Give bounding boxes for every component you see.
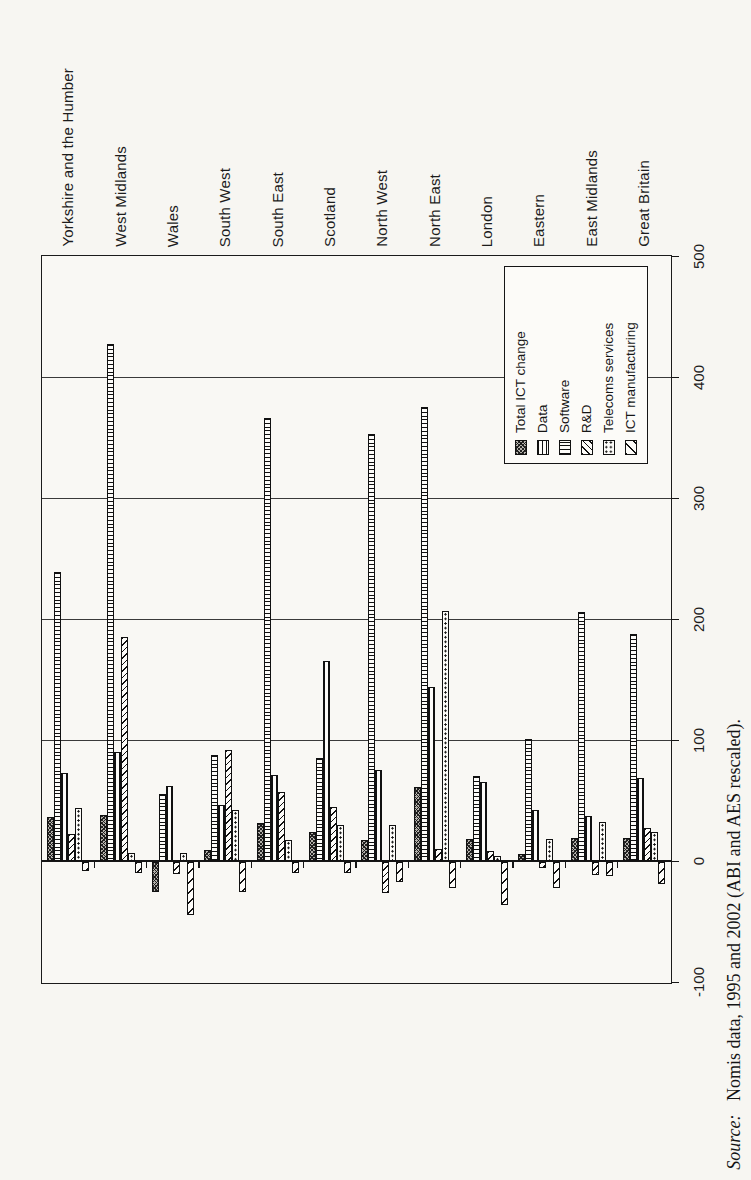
bar-south-west-ict-manufacturing [239, 862, 246, 892]
bar-yorkshire-and-the-humber-ict-manufacturing [82, 862, 89, 872]
bar-great-britain-total-ict-change [623, 838, 630, 861]
category-label-wales: Wales [163, 0, 183, 247]
legend-row-ict-manufacturing: ICT manufacturing [620, 267, 642, 455]
legend-swatch-total-icon [515, 440, 527, 455]
category-label-scotland: Scotland [320, 0, 340, 247]
category-label-text: West Midlands [113, 146, 130, 247]
source-prefix: Source: [724, 1115, 744, 1170]
value-axis-label-300: 300 [688, 439, 710, 559]
bar-yorkshire-and-the-humber-software [61, 773, 68, 861]
bar-north-west-telecoms-services [389, 825, 396, 861]
bar-eastern-software [532, 810, 539, 861]
category-label-great-britain: Great Britain [634, 0, 654, 247]
category-label-south-east: South East [268, 0, 288, 247]
bar-north-east-telecoms-services [442, 611, 449, 861]
category-label-text: North West [374, 170, 391, 247]
category-label-text: Wales [165, 205, 182, 247]
legend-swatch-rd-icon [581, 440, 593, 455]
legend-label: Software [557, 380, 572, 433]
bar-east-midlands-telecoms-services [599, 822, 606, 861]
category-label-eastern: Eastern [530, 0, 550, 247]
value-axis-label-0: 0 [688, 802, 710, 922]
value-axis-label-200: 200 [688, 560, 710, 680]
bar-east-midlands-ict-manufacturing [606, 862, 613, 877]
value-axis-tick-500 [671, 256, 679, 258]
bar-south-west-data [211, 755, 218, 861]
category-label-text: Eastern [531, 194, 548, 247]
bar-eastern-total-ict-change [518, 854, 525, 861]
bar-london-randd [487, 851, 494, 861]
bar-great-britain-ict-manufacturing [658, 862, 665, 884]
value-axis-tick-200 [671, 619, 679, 621]
bar-east-midlands-data [578, 612, 585, 861]
bar-south-east-randd [278, 792, 285, 861]
bar-north-west-data [368, 434, 375, 861]
bar-scotland-telecoms-services [337, 825, 344, 861]
bar-great-britain-data [630, 634, 637, 861]
bar-london-telecoms-services [494, 856, 501, 861]
legend-label: Telecoms services [601, 323, 616, 433]
bar-wales-software [166, 786, 173, 861]
value-axis-label-text: 300 [691, 486, 708, 511]
bar-west-midlands-software [114, 752, 121, 861]
bar-west-midlands-total-ict-change [100, 815, 107, 861]
legend-label: R&D [579, 404, 594, 433]
value-axis-label-text: 0 [691, 857, 708, 865]
bar-south-west-total-ict-change [204, 850, 211, 861]
bar-eastern-ict-manufacturing [553, 862, 560, 889]
value-axis-tick-0 [671, 861, 679, 863]
bar-london-total-ict-change [466, 839, 473, 861]
source-note-text: Source: Nomis data, 1995 and 2002 (ABI a… [725, 719, 745, 1170]
category-label-east-midlands: East Midlands [582, 0, 602, 247]
bar-wales-randd [173, 862, 180, 874]
bar-south-east-telecoms-services [285, 840, 292, 861]
legend-row-telecoms-services: Telecoms services [598, 267, 620, 455]
category-label-north-west: North West [373, 0, 393, 247]
gridline-300 [42, 498, 671, 499]
category-label-text: Yorkshire and the Humber [60, 68, 77, 247]
bar-london-software [480, 782, 487, 861]
value-axis-tick-400 [671, 377, 679, 379]
bar-south-east-total-ict-change [257, 823, 264, 861]
value-axis-label-text: -100 [691, 967, 708, 997]
bar-east-midlands-total-ict-change [571, 838, 578, 861]
legend-row-data: Data [532, 267, 554, 455]
category-label-text: North East [427, 174, 444, 247]
category-tick [408, 861, 410, 868]
bar-south-west-software [218, 805, 225, 861]
bar-west-midlands-data [107, 344, 114, 861]
bar-scotland-ict-manufacturing [344, 862, 351, 873]
category-tick [303, 861, 305, 868]
bar-scotland-randd [330, 807, 337, 861]
legend-label: ICT manufacturing [623, 322, 638, 433]
category-label-text: London [479, 196, 496, 247]
bar-yorkshire-and-the-humber-total-ict-change [47, 817, 54, 861]
bar-wales-ict-manufacturing [187, 862, 194, 915]
bar-north-east-randd [435, 849, 442, 861]
bar-london-data [473, 776, 480, 861]
category-tick [617, 861, 619, 868]
legend-row-total-ict-change: Total ICT change [510, 267, 532, 455]
bar-north-west-randd [382, 862, 389, 893]
source-body: Nomis data, 1995 and 2002 (ABI and AES r… [724, 719, 744, 1101]
category-tick [512, 861, 514, 868]
category-tick [94, 861, 96, 868]
bar-south-west-randd [225, 750, 232, 861]
bar-eastern-randd [539, 862, 546, 868]
bar-north-west-total-ict-change [361, 840, 368, 861]
value-axis-tick--100 [671, 982, 679, 984]
bar-north-east-data [421, 407, 428, 861]
value-axis-label-500: 500 [688, 197, 710, 317]
legend-swatch-ictman-icon [625, 440, 637, 455]
bar-wales-data [159, 794, 166, 861]
bar-yorkshire-and-the-humber-telecoms-services [75, 808, 82, 861]
legend-swatch-data-icon [537, 440, 549, 455]
legend-label: Total ICT change [513, 331, 528, 433]
legend-row-randd: R&D [576, 267, 598, 455]
bar-great-britain-telecoms-services [651, 832, 658, 861]
bar-wales-total-ict-change [152, 862, 159, 892]
bar-south-east-ict-manufacturing [292, 862, 299, 873]
bar-scotland-total-ict-change [309, 832, 316, 861]
bar-yorkshire-and-the-humber-randd [68, 834, 75, 861]
bar-great-britain-randd [644, 828, 651, 861]
